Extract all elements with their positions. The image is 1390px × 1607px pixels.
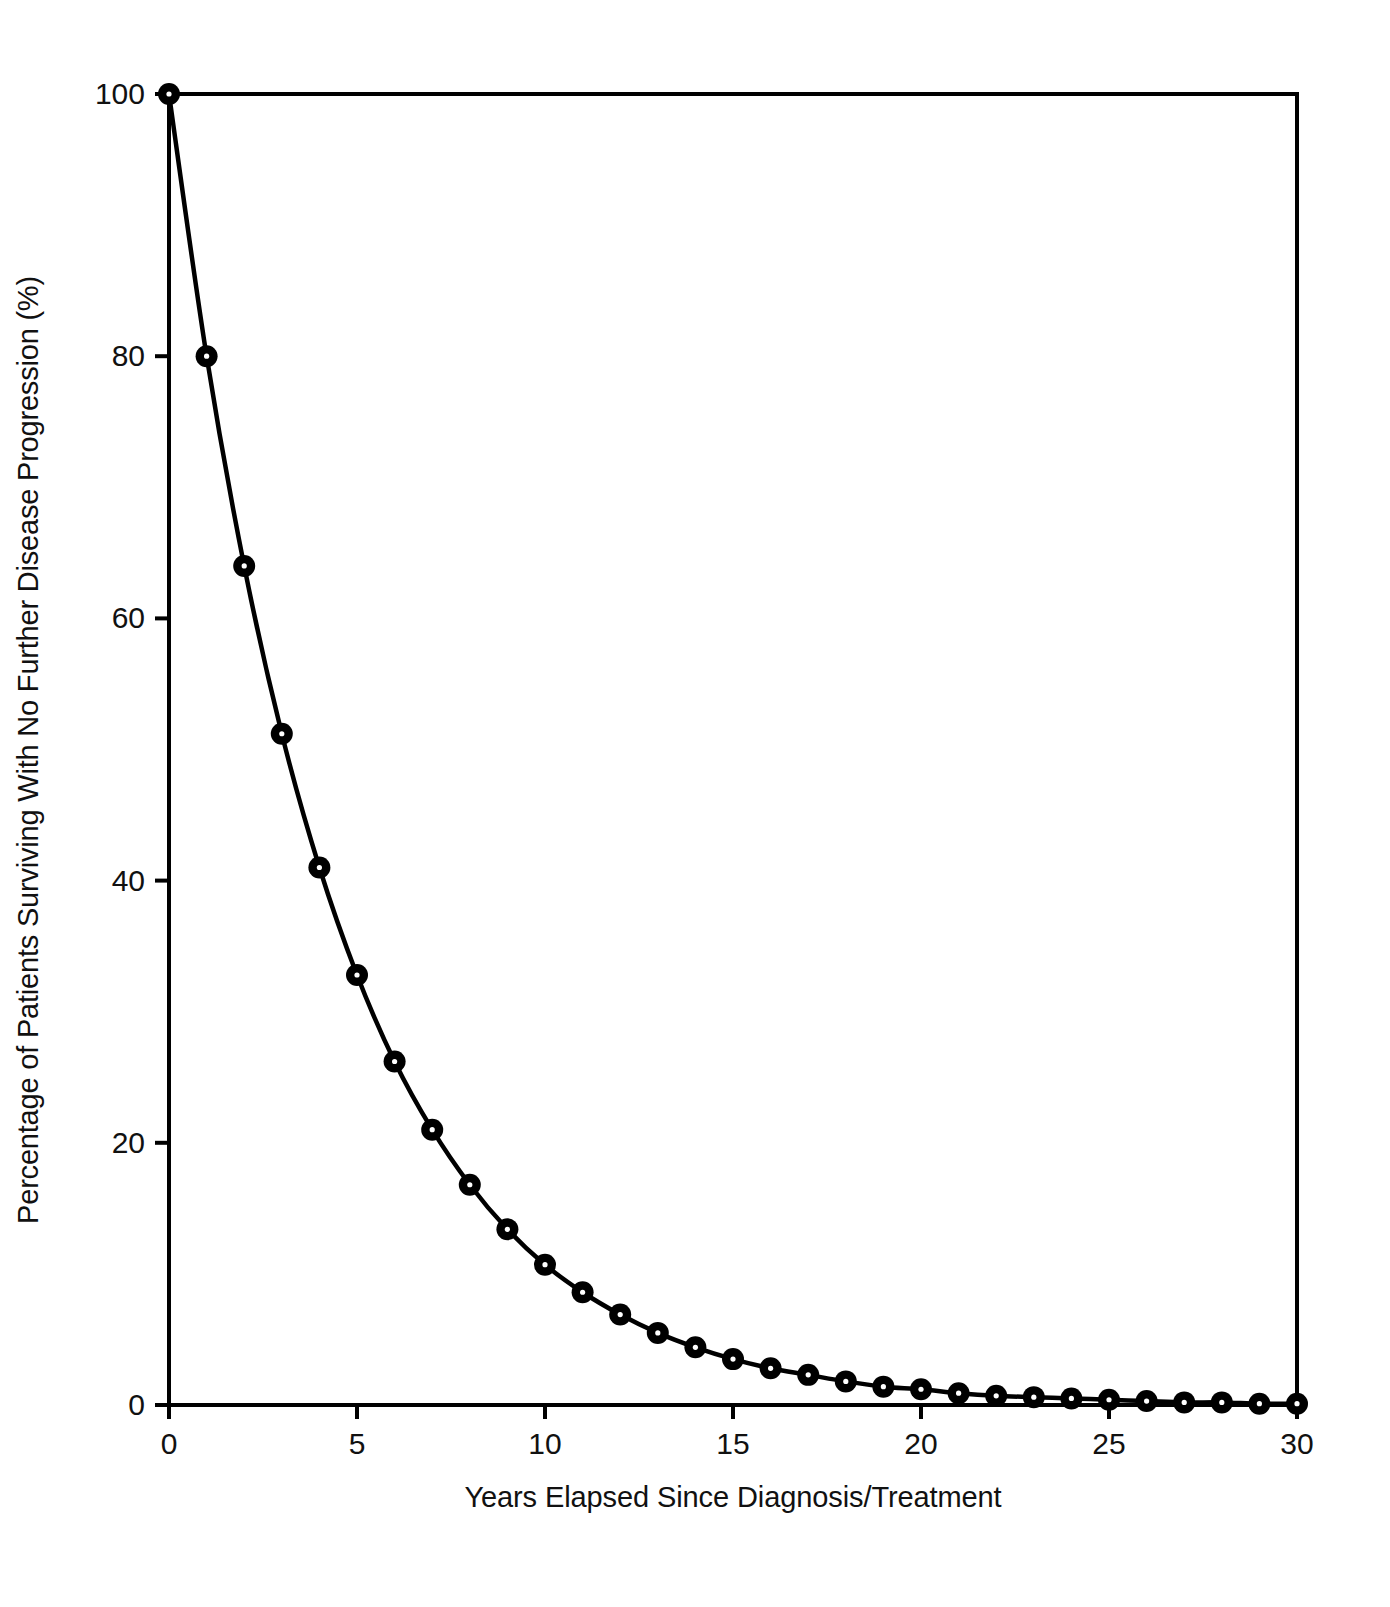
data-point-marker — [158, 83, 180, 105]
data-point-marker — [948, 1382, 970, 1404]
y-tick-label: 100 — [40, 77, 145, 111]
x-tick-label: 15 — [673, 1427, 793, 1461]
chart-page: Percentage of Patients Surviving With No… — [0, 0, 1390, 1607]
marker-center-dot — [918, 1387, 923, 1392]
data-point-marker — [1098, 1389, 1120, 1411]
marker-center-dot — [354, 972, 359, 977]
plot-frame — [169, 94, 1297, 1405]
marker-center-dot — [279, 731, 284, 736]
marker-center-dot — [881, 1384, 886, 1389]
data-point-marker — [722, 1348, 744, 1370]
y-tick-label: 0 — [40, 1388, 145, 1422]
data-point-marker — [346, 964, 368, 986]
data-point-marker — [872, 1376, 894, 1398]
data-point-marker — [835, 1370, 857, 1392]
data-point-marker — [1023, 1386, 1045, 1408]
data-point-marker — [647, 1322, 669, 1344]
marker-center-dot — [1106, 1397, 1111, 1402]
marker-center-dot — [242, 563, 247, 568]
y-tick-label: 60 — [40, 601, 145, 635]
data-point-marker — [985, 1385, 1007, 1407]
data-point-marker — [1173, 1391, 1195, 1413]
data-point-marker — [910, 1378, 932, 1400]
marker-center-dot — [317, 865, 322, 870]
marker-center-dot — [1031, 1395, 1036, 1400]
marker-center-dot — [1069, 1396, 1074, 1401]
data-point-marker — [1060, 1387, 1082, 1409]
x-tick-label: 25 — [1049, 1427, 1169, 1461]
marker-center-dot — [806, 1372, 811, 1377]
marker-center-dot — [204, 354, 209, 359]
marker-center-dot — [392, 1059, 397, 1064]
data-point-marker — [459, 1174, 481, 1196]
data-point-marker — [308, 856, 330, 878]
plot-canvas — [0, 0, 1390, 1607]
marker-center-dot — [166, 91, 171, 96]
marker-center-dot — [1219, 1400, 1224, 1405]
data-point-marker — [384, 1051, 406, 1073]
data-markers — [158, 83, 1308, 1415]
marker-center-dot — [730, 1357, 735, 1362]
y-tick-label: 80 — [40, 339, 145, 373]
marker-center-dot — [994, 1393, 999, 1398]
data-series — [169, 94, 1297, 1404]
x-tick-label: 0 — [109, 1427, 229, 1461]
data-point-marker — [1248, 1393, 1270, 1415]
y-tick-label: 40 — [40, 864, 145, 898]
data-point-marker — [1136, 1390, 1158, 1412]
marker-center-dot — [467, 1182, 472, 1187]
data-point-marker — [496, 1218, 518, 1240]
data-point-marker — [760, 1357, 782, 1379]
marker-center-dot — [430, 1127, 435, 1132]
data-point-marker — [196, 345, 218, 367]
x-tick-label: 20 — [861, 1427, 981, 1461]
x-axis-title: Years Elapsed Since Diagnosis/Treatment — [169, 1481, 1297, 1514]
data-point-marker — [421, 1119, 443, 1141]
marker-center-dot — [1182, 1400, 1187, 1405]
axis-ticks — [155, 94, 1297, 1419]
data-point-marker — [233, 555, 255, 577]
marker-center-dot — [768, 1366, 773, 1371]
data-point-marker — [1211, 1391, 1233, 1413]
data-point-marker — [534, 1254, 556, 1276]
series-line — [169, 94, 1297, 1404]
marker-center-dot — [655, 1330, 660, 1335]
data-point-marker — [684, 1336, 706, 1358]
marker-center-dot — [580, 1290, 585, 1295]
marker-center-dot — [956, 1391, 961, 1396]
marker-center-dot — [1257, 1401, 1262, 1406]
x-tick-label: 30 — [1237, 1427, 1357, 1461]
marker-center-dot — [1144, 1398, 1149, 1403]
data-point-marker — [572, 1281, 594, 1303]
x-tick-label: 5 — [297, 1427, 417, 1461]
marker-center-dot — [542, 1262, 547, 1267]
marker-center-dot — [505, 1227, 510, 1232]
x-tick-label: 10 — [485, 1427, 605, 1461]
data-point-marker — [1286, 1393, 1308, 1415]
marker-center-dot — [618, 1312, 623, 1317]
y-tick-label: 20 — [40, 1126, 145, 1160]
data-point-marker — [797, 1364, 819, 1386]
data-point-marker — [271, 723, 293, 745]
marker-center-dot — [1294, 1401, 1299, 1406]
marker-center-dot — [843, 1379, 848, 1384]
plot-border — [169, 94, 1297, 1405]
data-point-marker — [609, 1304, 631, 1326]
marker-center-dot — [693, 1345, 698, 1350]
